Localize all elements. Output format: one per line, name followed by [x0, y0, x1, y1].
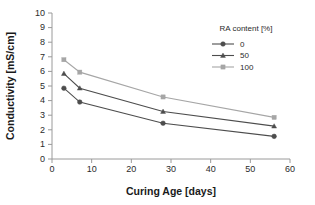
x-tick-label: 0 — [49, 164, 54, 174]
legend-label: 100 — [240, 63, 254, 72]
data-point — [272, 134, 277, 139]
data-point — [161, 95, 165, 99]
y-tick-label: 8 — [40, 37, 45, 47]
data-point — [272, 115, 276, 119]
y-tick-label: 4 — [40, 95, 45, 105]
x-tick-label: 50 — [245, 164, 255, 174]
chart-figure: 012345678910 0102030405060 RA content [%… — [0, 0, 315, 205]
y-axis-title: Conductivity [mS/cm] — [4, 32, 16, 140]
y-tick-label: 7 — [40, 52, 45, 62]
data-point — [62, 58, 66, 62]
x-tick-label: 40 — [206, 164, 216, 174]
y-tick-label: 9 — [40, 22, 45, 32]
legend-marker-circle-icon — [221, 42, 226, 47]
legend-label: 0 — [240, 40, 245, 49]
data-point — [62, 86, 67, 91]
y-tick-label: 0 — [40, 154, 45, 164]
y-tick-label: 3 — [40, 110, 45, 120]
y-tick-label: 2 — [40, 125, 45, 135]
legend-title: RA content [%] — [220, 24, 273, 33]
y-tick-label: 1 — [40, 139, 45, 149]
x-tick-label: 60 — [285, 164, 295, 174]
data-point — [78, 70, 82, 74]
x-axis-title: Curing Age [days] — [126, 185, 216, 197]
conductivity-vs-curing-age-chart: 012345678910 0102030405060 RA content [%… — [0, 0, 315, 205]
x-tick-label: 20 — [126, 164, 136, 174]
x-tick-label: 30 — [166, 164, 176, 174]
legend-marker-square-icon — [221, 65, 225, 69]
x-tick-label: 10 — [87, 164, 97, 174]
legend-label: 50 — [240, 51, 249, 60]
data-point — [77, 100, 82, 105]
data-point — [161, 121, 166, 126]
y-tick-label: 5 — [40, 81, 45, 91]
y-tick-label: 10 — [35, 8, 45, 18]
y-tick-label: 6 — [40, 66, 45, 76]
